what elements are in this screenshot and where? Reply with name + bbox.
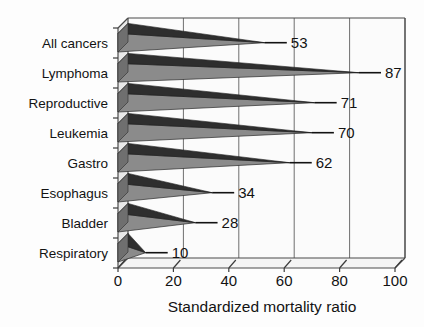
y-axis-label: Bladder [61, 216, 108, 231]
value-label: 34 [238, 184, 255, 201]
value-label: 87 [385, 64, 402, 81]
y-axis-label: Leukemia [49, 126, 108, 141]
value-label: 28 [222, 214, 239, 231]
value-label: 53 [291, 34, 308, 51]
x-axis-tick-label: 60 [276, 272, 293, 289]
x-axis-tick-label: 80 [331, 272, 348, 289]
y-axis-label: Lymphoma [42, 66, 109, 81]
x-axis-tick-label: 0 [114, 272, 122, 289]
chart-container: All cancersLymphomaReproductiveLeukemiaG… [0, 0, 424, 327]
x-axis-tick-labels: 020406080100 [114, 272, 408, 289]
x-axis-tick-label: 20 [165, 272, 182, 289]
plot-floor [118, 258, 405, 268]
y-axis-label: All cancers [42, 36, 108, 51]
x-axis-title: Standardized mortality ratio [168, 298, 357, 315]
value-label: 62 [316, 154, 333, 171]
value-label: 70 [338, 124, 355, 141]
y-axis-label: Esophagus [40, 186, 108, 201]
x-axis-tick-label: 40 [220, 272, 237, 289]
y-axis-label: Reproductive [28, 96, 108, 111]
x-axis-tick-label: 100 [382, 272, 407, 289]
cone-bar-chart: All cancersLymphomaReproductiveLeukemiaG… [0, 0, 424, 327]
value-label: 71 [341, 94, 358, 111]
y-axis-label: Gastro [67, 156, 108, 171]
y-axis-label: Respiratory [39, 246, 108, 261]
y-axis-labels: All cancersLymphomaReproductiveLeukemiaG… [28, 36, 108, 261]
value-label: 10 [172, 244, 189, 261]
y-axis-ticks [113, 28, 118, 268]
